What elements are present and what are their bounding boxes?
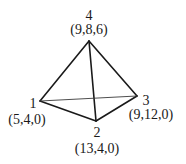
- vertex-4-number: 4: [86, 9, 93, 23]
- vertex-3-number: 3: [143, 94, 150, 108]
- edge-4-3: [89, 41, 137, 96]
- vertex-3-coords: (9,12,0): [129, 108, 173, 122]
- vertex-4-coords: (9,8,6): [70, 23, 107, 37]
- edge-1-2: [40, 101, 96, 121]
- vertex-2-coords: (13,4,0): [75, 142, 119, 156]
- vertex-1-coords: (5,4,0): [8, 113, 45, 127]
- edge-4-2: [89, 41, 96, 121]
- edge-1-3: [40, 96, 137, 101]
- vertex-2-number: 2: [94, 126, 101, 140]
- vertex-1-number: 1: [30, 97, 37, 111]
- edge-4-1: [40, 41, 89, 101]
